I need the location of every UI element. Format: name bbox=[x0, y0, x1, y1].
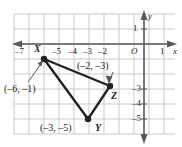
y-tick-label-neg4: –4 bbox=[132, 99, 141, 108]
y-tick-label-neg5: –5 bbox=[132, 114, 141, 123]
x-tick-label-neg5: –5 bbox=[52, 47, 61, 56]
grid-lines bbox=[14, 14, 175, 134]
x-tick-label-1: 1 bbox=[160, 47, 165, 56]
vertex-label-y: Y bbox=[95, 123, 101, 133]
vertex-point-y bbox=[85, 116, 91, 122]
coord-label-y: (–3, –5) bbox=[40, 123, 72, 133]
coord-label-z: (–2, –3) bbox=[77, 61, 109, 71]
vertex-point-z bbox=[107, 83, 113, 89]
y-tick-label-1: 1 bbox=[133, 24, 138, 33]
vertex-label-x: X bbox=[34, 44, 41, 54]
y-axis-arrow-down bbox=[141, 134, 148, 144]
x-tick-label-neg4: –4 bbox=[68, 47, 77, 56]
y-axis-name-label: y bbox=[148, 12, 152, 21]
y-tick-label-neg3: –3 bbox=[132, 84, 141, 93]
y-axis bbox=[141, 10, 148, 144]
leader-line-x bbox=[28, 60, 43, 82]
coordinate-plane-figure: –7 –5 –4 –3 –2 1 O 1 –3 –4 –5 x y X Y Z … bbox=[0, 0, 182, 147]
x-tick-label-neg2: –2 bbox=[98, 47, 107, 56]
x-tick-label-neg3: –3 bbox=[83, 47, 92, 56]
graph-canvas bbox=[0, 0, 182, 147]
vertex-label-z: Z bbox=[111, 91, 117, 101]
x-axis-name-label: x bbox=[173, 47, 177, 56]
x-tick-label-neg7: –7 bbox=[15, 47, 24, 56]
origin-label: O bbox=[131, 47, 138, 56]
coord-label-x: (–6, –1) bbox=[4, 84, 36, 94]
y-axis-arrow-up bbox=[141, 10, 148, 20]
